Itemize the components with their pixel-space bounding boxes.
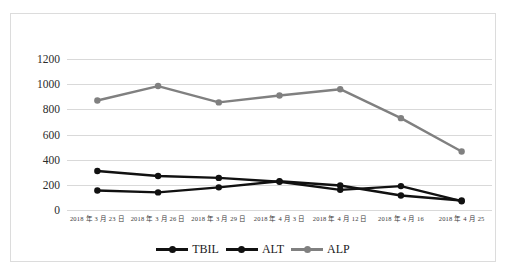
y-axis-tick-label: 0 [54, 204, 60, 216]
x-axis-labels: 2018 年 3 月 23 日2018 年 3 月 26 日2018 年 3 月… [67, 213, 492, 229]
data-point [216, 175, 222, 181]
data-point [458, 148, 464, 154]
line-marker-icon [291, 245, 323, 255]
data-point [398, 183, 404, 189]
chart-legend: TBILALTALP [11, 242, 495, 257]
line-marker-icon [226, 245, 258, 255]
data-point [155, 189, 161, 195]
data-point [94, 187, 100, 193]
data-point [276, 178, 282, 184]
y-axis-tick-label: 200 [43, 179, 60, 191]
gridline: 0 [67, 210, 492, 211]
data-point [94, 97, 100, 103]
legend-item-tbil[interactable]: TBIL [156, 242, 219, 257]
x-axis-tick-label: 2018 年 4 月 12 日 [313, 213, 368, 223]
x-axis-tick-label: 2018 年 3 月 23 日 [70, 213, 125, 223]
data-point [337, 86, 343, 92]
data-point [155, 83, 161, 89]
series-alp [94, 83, 465, 155]
x-axis-tick-label: 2018 年 4 月 25 [439, 213, 485, 223]
series-lines-group [67, 59, 492, 210]
legend-item-label: TBIL [192, 242, 219, 257]
x-axis-tick-label: 2018 年 3 月 26 日 [131, 213, 186, 223]
data-point [458, 198, 464, 204]
legend-item-alp[interactable]: ALP [291, 242, 350, 257]
data-point [155, 173, 161, 179]
x-axis-tick-label: 2018 年 3 月 29 日 [191, 213, 246, 223]
chart-frame: 120010008006004002000 2018 年 3 月 23 日201… [10, 13, 496, 262]
data-point [398, 115, 404, 121]
line-marker-icon [156, 245, 188, 255]
x-axis-tick-label: 2018 年 4 月 3 日 [254, 213, 305, 223]
legend-item-alt[interactable]: ALT [226, 242, 284, 257]
data-point [216, 184, 222, 190]
x-axis-tick-label: 2018 年 4 月 16 [378, 213, 424, 223]
y-axis-tick-label: 600 [43, 129, 60, 141]
data-point [276, 92, 282, 98]
data-point [398, 192, 404, 198]
legend-item-label: ALP [327, 242, 350, 257]
legend-item-label: ALT [262, 242, 284, 257]
plot-area: 120010008006004002000 [67, 59, 492, 210]
data-point [94, 168, 100, 174]
y-axis-tick-label: 1000 [37, 78, 60, 90]
y-axis-tick-label: 800 [43, 103, 60, 115]
y-axis-tick-label: 1200 [37, 53, 60, 65]
series-alt [94, 168, 465, 205]
data-point [216, 99, 222, 105]
y-axis-tick-label: 400 [43, 154, 60, 166]
data-point [337, 187, 343, 193]
